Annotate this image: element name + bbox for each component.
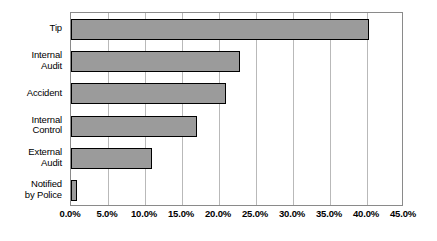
plot-area — [70, 12, 403, 206]
y-axis-label-line: Internal — [0, 50, 62, 61]
y-axis-label: InternalAudit — [0, 50, 62, 71]
y-axis-label-line: Control — [0, 125, 62, 136]
y-axis-label-line: Audit — [0, 61, 62, 72]
bar — [71, 51, 240, 72]
y-axis-category-labels: TipInternalAuditAccidentInternalControlE… — [0, 12, 66, 206]
bar — [71, 116, 197, 137]
y-axis-label: ExternalAudit — [0, 147, 62, 168]
bar-chart: TipInternalAuditAccidentInternalControlE… — [0, 0, 437, 241]
y-axis-label: Accident — [0, 88, 62, 99]
y-axis-label: Notifiedby Police — [0, 179, 62, 200]
bar — [71, 180, 77, 201]
bar — [71, 19, 369, 40]
y-axis-label: InternalControl — [0, 115, 62, 136]
bar-series — [71, 13, 402, 205]
bar — [71, 83, 226, 104]
y-axis-label-line: Accident — [0, 88, 62, 99]
y-axis-label-line: External — [0, 147, 62, 158]
y-axis-label-line: Audit — [0, 158, 62, 169]
x-axis-tick-label: 45.0% — [379, 208, 427, 220]
x-axis-tick-labels: 0.0%5.0%10.0%15.0%20.0%25.0%30.0%35.0%40… — [70, 208, 403, 224]
y-axis-label-line: by Police — [0, 190, 62, 201]
bar — [71, 148, 152, 169]
y-axis-label: Tip — [0, 23, 62, 34]
y-axis-label-line: Tip — [0, 23, 62, 34]
